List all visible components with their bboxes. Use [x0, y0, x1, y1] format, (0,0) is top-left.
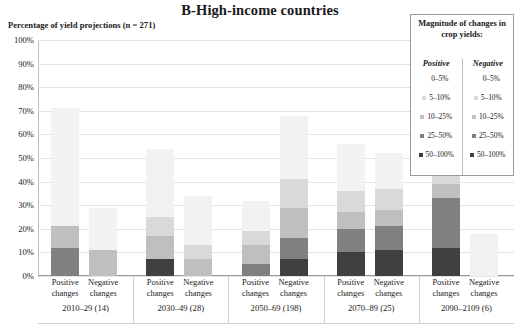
- stacked-bar: [375, 153, 403, 276]
- x-tick-label: Negativechanges: [77, 278, 129, 299]
- legend-swatch-icon: [420, 134, 424, 138]
- bar-segment: [280, 208, 308, 239]
- y-axis-title: Percentage of yield projections (n = 271…: [8, 20, 155, 30]
- y-tick-label: 80%: [2, 83, 34, 92]
- x-group-separator: [419, 276, 420, 323]
- x-tick-label-line: changes: [363, 289, 415, 300]
- legend-title: Magnitude of changes in crop yields:: [415, 19, 509, 40]
- stacked-bar: [337, 144, 365, 276]
- x-tick-label-line: changes: [458, 289, 510, 300]
- legend-box: Magnitude of changes in crop yields: Pos…: [410, 14, 514, 176]
- bar-segment: [375, 153, 403, 188]
- bar-segment: [242, 231, 270, 245]
- legend-item-label: 0–5%: [431, 74, 448, 83]
- bar-segment: [146, 149, 174, 217]
- legend-column-positive: Positive 0–5%5–10%10–25%25–50%50–100%: [411, 59, 462, 175]
- bar-segment: [337, 212, 365, 229]
- y-tick-label: 10%: [2, 248, 34, 257]
- bar-segment: [375, 250, 403, 276]
- legend-swatch-icon: [472, 134, 476, 138]
- legend-item[interactable]: 10–25%: [463, 107, 514, 126]
- bar-segment: [89, 208, 117, 250]
- legend-swatch-icon: [470, 153, 474, 157]
- legend-item[interactable]: 50–100%: [463, 145, 514, 164]
- legend-item[interactable]: 0–5%: [463, 69, 514, 88]
- x-tick-label-line: Negative: [458, 278, 510, 289]
- legend-item[interactable]: 25–50%: [463, 126, 514, 145]
- y-tick-label: 70%: [2, 107, 34, 116]
- y-tick-label: 30%: [2, 201, 34, 210]
- legend-item-label: 5–10%: [481, 93, 502, 102]
- legend-column-negative: Negative 0–5%5–10%10–25%25–50%50–100%: [462, 59, 514, 175]
- legend-items-positive: 0–5%5–10%10–25%25–50%50–100%: [411, 69, 462, 164]
- y-tick-label: 60%: [2, 130, 34, 139]
- stacked-bar: [242, 200, 270, 276]
- bar-segment: [184, 196, 212, 246]
- bar-segment: [375, 210, 403, 227]
- x-axis-labels: PositivechangesNegativechanges2010–29 (1…: [38, 276, 514, 325]
- bar-segment: [184, 259, 212, 276]
- bar-segment: [51, 226, 79, 247]
- x-group-separator: [324, 276, 325, 323]
- x-axis-bottom-rule: [38, 323, 514, 324]
- x-tick-label: Negativechanges: [363, 278, 415, 299]
- bar-segment: [375, 189, 403, 210]
- legend-item-label: 50–100%: [426, 150, 454, 159]
- legend-item-label: 0–5%: [483, 74, 500, 83]
- legend-header-negative: Negative: [463, 59, 514, 69]
- stacked-bar: [51, 108, 79, 276]
- legend-swatch-icon: [424, 77, 428, 81]
- x-group-label: 2090–2109 (6): [406, 303, 520, 313]
- bar-segment: [280, 179, 308, 207]
- legend-swatch-icon: [420, 115, 424, 119]
- legend-swatch-icon: [422, 96, 426, 100]
- legend-item[interactable]: 0–5%: [411, 69, 462, 88]
- legend-items-negative: 0–5%5–10%10–25%25–50%50–100%: [463, 69, 514, 164]
- bar-segment: [242, 201, 270, 232]
- x-group-separator: [228, 276, 229, 323]
- bar-segment: [375, 226, 403, 250]
- y-tick-label: 90%: [2, 60, 34, 69]
- bar-segment: [242, 264, 270, 276]
- legend-item-label: 25–50%: [479, 131, 504, 140]
- stacked-bar: [280, 116, 308, 276]
- stacked-bar: [89, 208, 117, 276]
- x-tick-label: Negativechanges: [172, 278, 224, 299]
- legend-header-positive: Positive: [411, 59, 462, 69]
- legend-swatch-icon: [472, 115, 476, 119]
- legend-item[interactable]: 5–10%: [411, 88, 462, 107]
- y-tick-label: 100%: [2, 36, 34, 45]
- y-axis-title-text: Percentage of yield projections (n = 271…: [8, 20, 155, 30]
- legend-swatch-icon: [419, 153, 423, 157]
- bar-segment: [432, 198, 460, 248]
- bar-segment: [337, 252, 365, 276]
- legend-item[interactable]: 25–50%: [411, 126, 462, 145]
- x-tick-label-line: Negative: [172, 278, 224, 289]
- bar-segment: [280, 116, 308, 180]
- bar-segment: [470, 234, 498, 276]
- bar-segment: [184, 245, 212, 259]
- legend-item-label: 5–10%: [429, 93, 450, 102]
- stacked-bar: [146, 149, 174, 276]
- bar-segment: [51, 108, 79, 226]
- stacked-bar: [470, 234, 498, 276]
- bar-segment: [280, 259, 308, 276]
- legend-item-label: 25–50%: [427, 131, 452, 140]
- legend-swatch-icon: [474, 96, 478, 100]
- bar-segment: [432, 248, 460, 276]
- bar-segment: [89, 250, 117, 276]
- legend-item[interactable]: 50–100%: [411, 145, 462, 164]
- x-tick-label-line: changes: [172, 289, 224, 300]
- legend-item[interactable]: 10–25%: [411, 107, 462, 126]
- bar-segment: [337, 144, 365, 191]
- bar-segment: [242, 245, 270, 264]
- bar-segment: [51, 248, 79, 276]
- legend-item-label: 10–25%: [427, 112, 452, 121]
- legend-item[interactable]: 5–10%: [463, 88, 514, 107]
- bar-segment: [146, 236, 174, 260]
- x-tick-label-line: changes: [77, 289, 129, 300]
- y-tick-label: 0%: [2, 272, 34, 281]
- x-tick-label-line: Negative: [363, 278, 415, 289]
- x-group-separator: [133, 276, 134, 323]
- legend-item-label: 10–25%: [479, 112, 504, 121]
